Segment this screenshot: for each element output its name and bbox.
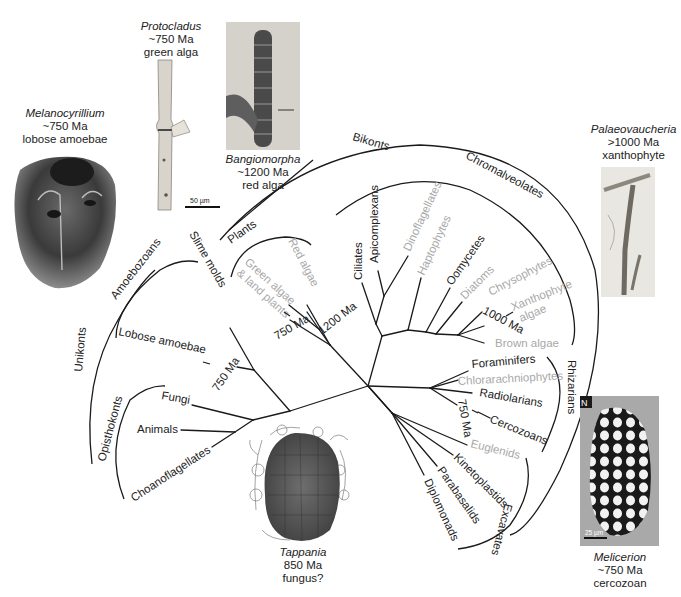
taxon-euglenids: Euglenids (470, 437, 522, 461)
caption-group: cercozoan (582, 577, 658, 590)
palaeovaucheria-fossil-image (601, 167, 655, 297)
caption-group: red alga (222, 179, 304, 192)
caption-bangiomorpha: Bangiomorpha ~1200 Ma red alga (222, 153, 304, 192)
tappania-fossil-image (250, 425, 349, 541)
label-opisthokonts: Opisthokonts (95, 394, 124, 462)
taxon-choanoflagellates: Choanoflagellates (129, 443, 213, 503)
taxon-apicomplexans: Apicomplexans (368, 185, 380, 263)
taxon-fungi: Fungi (161, 389, 191, 406)
melicerion-fossil-image (580, 396, 659, 546)
age-mark-cercozoa: 750 Ma (456, 398, 475, 438)
caption-genus: Tappania (268, 546, 338, 559)
taxon-red-algae: Red algae (286, 236, 321, 288)
age-mark-lobose-amoebae: 750 Ma (210, 354, 242, 393)
caption-group: xanthophyte (586, 149, 681, 162)
taxon-ciliates: Ciliates (352, 242, 364, 280)
caption-age: ~750 Ma (10, 120, 120, 133)
caption-melanocyrillium: Melanocyrillium ~750 Ma lobose amoebae (10, 107, 120, 146)
label-excavates: Excavates (489, 502, 514, 557)
taxon-chlorarachniophytes: Chlorarachniophytes (457, 369, 563, 387)
label-plants: Plants (225, 217, 258, 245)
taxon-brown-algae: Brown algae (495, 337, 559, 349)
caption-genus: Melicerion (582, 551, 658, 564)
label-rhizarians: Rhizarians (566, 360, 578, 415)
protocladus-fossil-image (157, 60, 221, 210)
caption-palaeovaucheria: Palaeovaucheria >1000 Ma xanthophyte (586, 123, 681, 162)
caption-age: 850 Ma (268, 559, 338, 572)
caption-genus: Melanocyrillium (10, 107, 120, 120)
caption-age: >1000 Ma (586, 136, 681, 149)
melicerion-panel-letter: N (581, 398, 588, 408)
caption-age: ~1200 Ma (222, 166, 304, 179)
taxon-animals: Animals (137, 423, 178, 435)
melicerion-scale-label: 25 µm (585, 529, 603, 537)
age-mark-green-algae: 750 Ma (272, 312, 312, 342)
caption-genus: Bangiomorpha (222, 153, 304, 166)
taxon-foraminifers: Foraminifers (471, 352, 536, 370)
age-mark-red-algae: 1200 Ma (316, 299, 359, 336)
taxon-lobose-amoebae: Lobose amoebae (118, 325, 207, 355)
eukaryote-phylogeny-figure: Bikonts Chromalveolates Plants Amoebozoa… (0, 0, 681, 597)
protocladus-scale-label: 50 µm (190, 197, 210, 205)
melanocyrillium-fossil-image (14, 157, 116, 288)
caption-melicerion: Melicerion ~750 Ma cercozoan (582, 551, 658, 590)
caption-protocladus: Protocladus ~750 Ma green alga (138, 20, 204, 59)
caption-age: ~750 Ma (138, 33, 204, 46)
taxon-cercozoans: Cercozoans (488, 413, 550, 447)
phylogenetic-tree: Bikonts Chromalveolates Plants Amoebozoa… (0, 0, 681, 597)
caption-group: green alga (138, 46, 204, 59)
caption-age: ~750 Ma (582, 564, 658, 577)
bangiomorpha-fossil-image (226, 22, 300, 150)
label-bikonts: Bikonts (351, 130, 391, 152)
caption-group: fungus? (268, 572, 338, 585)
caption-tappania: Tappania 850 Ma fungus? (268, 546, 338, 585)
caption-genus: Protocladus (138, 20, 204, 33)
caption-group: lobose amoebae (10, 133, 120, 146)
label-unikonts: Unikonts (72, 326, 88, 372)
taxon-slime-molds: Slime molds (187, 229, 229, 289)
caption-genus: Palaeovaucheria (586, 123, 681, 136)
taxon-radiolarians: Radiolarians (479, 386, 544, 409)
